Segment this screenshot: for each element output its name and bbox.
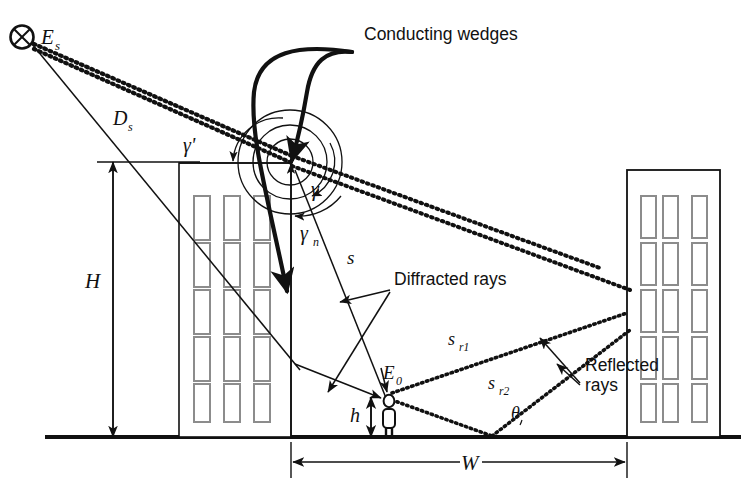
label-sr1-sub: r1 bbox=[459, 341, 469, 353]
label-source-distance-sub: s bbox=[128, 120, 133, 134]
label-sr2-sub: r2 bbox=[499, 385, 509, 397]
label-gamma-prime: γ' bbox=[183, 134, 196, 157]
diffracted-rays-leader-a bbox=[340, 290, 390, 302]
right-building bbox=[627, 170, 720, 437]
left-building bbox=[179, 163, 291, 437]
reflected-ray-sr2-down bbox=[392, 400, 492, 436]
direct-ray-solid-lower bbox=[295, 364, 381, 398]
label-diffracted-rays: Diffracted rays bbox=[394, 269, 507, 289]
theta-angle-arc bbox=[520, 420, 522, 425]
label-H: H bbox=[84, 269, 102, 293]
label-conducting-wedges: Conducting wedges bbox=[364, 24, 518, 44]
label-reflected-rays-line2: rays bbox=[585, 375, 618, 395]
label-source: E bbox=[40, 25, 54, 49]
label-sr1: s bbox=[448, 329, 455, 349]
dimension-W bbox=[291, 442, 627, 478]
source-marker-crossed-circle bbox=[11, 26, 34, 49]
label-gamma-n-sub: n bbox=[313, 235, 319, 249]
label-s-ray: s bbox=[347, 247, 354, 268]
incident-ray-continuation-upper bbox=[292, 156, 600, 268]
label-reflected-rays-line1: Reflected bbox=[585, 355, 659, 375]
diffracted-rays-leader-b bbox=[328, 292, 390, 392]
diffracted-ray-s bbox=[295, 170, 386, 398]
diagram-canvas: E s D s γ' γ γ n s Conducting wedges Dif… bbox=[0, 0, 741, 495]
propagation-diagram-svg: E s D s γ' γ γ n s Conducting wedges Dif… bbox=[0, 0, 741, 495]
label-source-distance: D bbox=[112, 107, 128, 129]
label-W: W bbox=[461, 451, 481, 475]
label-sr2: s bbox=[488, 373, 495, 393]
label-field-point-sub: 0 bbox=[396, 374, 402, 388]
label-gamma: γ bbox=[311, 178, 320, 201]
label-source-sub: s bbox=[55, 38, 60, 53]
label-field-point: E bbox=[382, 362, 395, 383]
label-theta: θ bbox=[511, 403, 520, 423]
label-h: h bbox=[350, 404, 360, 426]
receiver-person-figure bbox=[383, 395, 395, 437]
label-gamma-n: γ bbox=[300, 222, 309, 245]
reflected-rays-leader-a bbox=[540, 338, 580, 383]
